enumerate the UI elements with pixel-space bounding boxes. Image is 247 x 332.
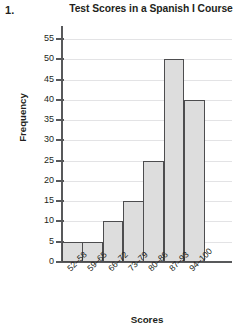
bar: [164, 59, 185, 262]
y-axis-tick-label: 15: [26, 196, 54, 205]
y-axis-title: Frequency: [17, 63, 28, 173]
y-axis-tick-label: 30: [26, 135, 54, 144]
question-number: 1.: [5, 4, 15, 16]
bar: [143, 161, 164, 262]
y-axis-tick-label: 45: [26, 75, 54, 84]
y-axis-tick-label: 0: [26, 257, 54, 266]
y-axis-tick-label: 35: [26, 115, 54, 124]
y-axis-tick-label: 25: [26, 156, 54, 165]
y-axis-tick-label: 10: [26, 216, 54, 225]
x-axis-title: Scores: [62, 314, 232, 325]
y-axis-tick-label: 40: [26, 95, 54, 104]
bar: [184, 100, 205, 262]
y-axis-tick-label: 5: [26, 237, 54, 246]
histogram-figure: 1. Test Scores in a Spanish I Course 051…: [0, 0, 247, 332]
bar-series: [62, 39, 232, 262]
chart-title: Test Scores in a Spanish I Course: [55, 3, 247, 14]
y-axis-tick-label: 50: [26, 54, 54, 63]
y-axis-tick-label: 20: [26, 176, 54, 185]
y-axis-tick-label: 55: [26, 34, 54, 43]
